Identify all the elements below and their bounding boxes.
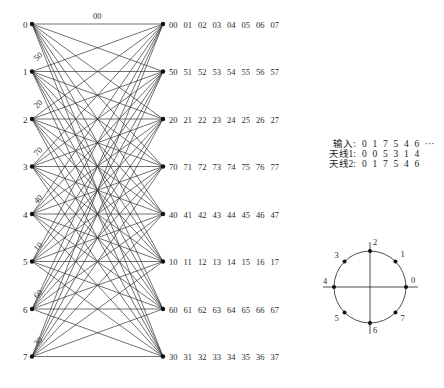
- branch-output-label: 35: [242, 352, 251, 362]
- state-node-left: [30, 22, 34, 26]
- branch-output-label: 11: [184, 257, 192, 267]
- state-node-left: [30, 117, 34, 121]
- branch-output-label: 12: [198, 257, 207, 267]
- legend-values: 0 1 7 5 4 6: [362, 159, 425, 169]
- branch-output-label: 70: [169, 162, 178, 172]
- branch-output-label: 56: [256, 67, 265, 77]
- state-label: 3: [23, 162, 28, 172]
- branch-output-label: 51: [184, 67, 193, 77]
- branch-output-label: 07: [271, 20, 280, 30]
- branch-output-label: 73: [213, 162, 222, 172]
- constellation-point: [393, 310, 397, 314]
- branch-output-label: 31: [184, 352, 193, 362]
- constellation-point-label: 7: [400, 313, 404, 323]
- branch-output-label: 06: [256, 20, 265, 30]
- branch-output-label: 74: [227, 162, 236, 172]
- branch-output-label: 04: [227, 20, 236, 30]
- branch-output-label: 71: [184, 162, 193, 172]
- branch-output-label: 57: [271, 67, 280, 77]
- state-label: 0: [23, 20, 28, 30]
- branch-output-label: 60: [169, 305, 178, 315]
- state-node-left: [30, 307, 34, 311]
- state-label: 2: [23, 115, 28, 125]
- symbol-mapping-legend: 输入: 0 1 7 5 4 6 ··· 天线1: 0 0 5 3 1 4 天线2…: [308, 139, 435, 169]
- edge-label: 70: [31, 145, 44, 158]
- branch-output-label: 43: [213, 210, 222, 220]
- branch-output-label: 21: [184, 115, 193, 125]
- constellation-point-label: 3: [335, 250, 339, 260]
- legend-value: 3: [394, 149, 405, 159]
- constellation-point: [393, 260, 397, 264]
- branch-output-label: 36: [256, 352, 265, 362]
- branch-output-label: 26: [256, 115, 265, 125]
- branch-output-label: 03: [213, 20, 222, 30]
- branch-output-label: 62: [198, 305, 207, 315]
- branch-output-label: 15: [242, 257, 251, 267]
- legend-values: 0 1 7 5 4 6 ···: [362, 139, 435, 149]
- branch-output-label: 47: [271, 210, 280, 220]
- branch-output-label: 34: [227, 352, 236, 362]
- legend-value: 6: [415, 139, 426, 149]
- branch-output-label: 53: [213, 67, 222, 77]
- constellation-point-label: 5: [335, 313, 339, 323]
- branch-output-label: 77: [271, 162, 280, 172]
- constellation-point: [404, 285, 408, 289]
- legend-value: 1: [404, 149, 415, 159]
- branch-output-label: 32: [198, 352, 207, 362]
- legend-value: 4: [404, 139, 415, 149]
- legend-row-input: 输入: 0 1 7 5 4 6 ···: [308, 139, 435, 149]
- branch-output-label: 50: [169, 67, 178, 77]
- branch-output-label: 27: [271, 115, 280, 125]
- state-node-right: [161, 69, 165, 73]
- branch-output-label: 46: [256, 210, 265, 220]
- branch-output-label: 16: [256, 257, 265, 267]
- branch-output-label: 24: [227, 115, 236, 125]
- legend-label: 输入:: [308, 139, 362, 149]
- legend-value: 1: [373, 139, 384, 149]
- state-node-left: [30, 69, 34, 73]
- legend-value: 7: [383, 139, 394, 149]
- legend-row-antenna-2: 天线2: 0 1 7 5 4 6: [308, 159, 435, 169]
- state-node-left: [30, 212, 34, 216]
- constellation-point: [368, 321, 372, 325]
- legend-label: 天线1:: [308, 149, 362, 159]
- legend-value: 0: [362, 139, 373, 149]
- branch-output-label: 13: [213, 257, 222, 267]
- legend-value: 0: [373, 149, 384, 159]
- legend-value: 4: [404, 159, 415, 169]
- branch-output-label: 72: [198, 162, 207, 172]
- 8psk-constellation: 01234567: [323, 237, 418, 335]
- state-node-left: [30, 354, 34, 358]
- branch-output-label: 54: [227, 67, 236, 77]
- branch-output-label: 05: [242, 20, 251, 30]
- trellis-edges: [32, 24, 163, 357]
- branch-output-label: 30: [169, 352, 178, 362]
- branch-output-label: 37: [271, 352, 280, 362]
- legend-row-antenna-1: 天线1: 0 0 5 3 1 4: [308, 149, 435, 159]
- edge-label: 50: [31, 50, 44, 63]
- legend-value: 4: [415, 149, 426, 159]
- branch-output-label: 65: [242, 305, 251, 315]
- branch-output-label: 45: [242, 210, 251, 220]
- legend-value: 5: [394, 159, 405, 169]
- constellation-point-label: 6: [373, 325, 377, 335]
- state-node-left: [30, 259, 34, 263]
- branch-output-label: 01: [184, 20, 193, 30]
- edge-label: 40: [31, 192, 44, 205]
- legend-value: 6: [415, 159, 426, 169]
- edge-label: 20: [31, 97, 44, 110]
- legend-value: 1: [373, 159, 384, 169]
- state-node-right: [161, 22, 165, 26]
- branch-output-label: 63: [213, 305, 222, 315]
- state-node-right: [161, 212, 165, 216]
- legend-value: 5: [383, 149, 394, 159]
- branch-output-label: 75: [242, 162, 251, 172]
- branch-output-label: 02: [198, 20, 207, 30]
- legend-value: 7: [383, 159, 394, 169]
- constellation-point: [368, 249, 372, 253]
- branch-output-label: 00: [169, 20, 178, 30]
- branch-output-label: 44: [227, 210, 236, 220]
- legend-value: 0: [362, 159, 373, 169]
- branch-output-label: 10: [169, 257, 178, 267]
- branch-output-label: 33: [213, 352, 222, 362]
